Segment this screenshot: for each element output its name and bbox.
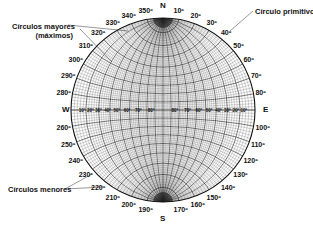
east-label: E — [263, 106, 268, 114]
azimuth-label-280: 280º — [57, 89, 71, 96]
azimuth-label-230: 230º — [79, 171, 93, 178]
equator-degree-label: 30º — [95, 108, 102, 113]
azimuth-label-140: 140º — [221, 184, 235, 191]
azimuth-label-340: 340º — [121, 12, 135, 19]
north-label: N — [160, 2, 166, 10]
azimuth-label-250: 250º — [61, 141, 75, 148]
azimuth-label-120: 120º — [243, 157, 257, 164]
azimuth-label-60: 60º — [243, 56, 253, 63]
azimuth-label-20: 20º — [191, 12, 201, 19]
equator-degree-label: 10º — [241, 108, 248, 113]
azimuth-label-220: 220º — [91, 184, 105, 191]
equator-degree-label: 40º — [215, 108, 222, 113]
azimuth-label-10: 10º — [174, 7, 184, 14]
azimuth-label-40: 40º — [221, 29, 231, 36]
azimuth-label-50: 50º — [233, 42, 243, 49]
azimuth-label-80: 80º — [255, 89, 265, 96]
azimuth-label-160: 160º — [191, 201, 205, 208]
azimuth-label-150: 150º — [207, 194, 221, 201]
great-circles-sublabel: (máximos) — [12, 32, 75, 41]
azimuth-label-240: 240º — [69, 157, 83, 164]
equator-degree-label: 30º — [224, 108, 231, 113]
equator-degree-label: 70º — [135, 108, 142, 113]
azimuth-label-70: 70º — [251, 72, 261, 79]
great-circles-callout: Círculos mayores (máximos) — [12, 23, 75, 40]
equator-degree-label: 40º — [104, 108, 111, 113]
azimuth-label-300: 300º — [69, 56, 83, 63]
equator-degree-label: 80º — [171, 108, 178, 113]
callout-leader-line — [230, 11, 253, 31]
stereonet-diagram: 10º10º20º20º30º30º40º40º50º50º60º60º70º7… — [0, 0, 313, 227]
equator-degree-label: 70º — [184, 108, 191, 113]
equator-degree-label: 20º — [87, 108, 94, 113]
primitive-circle-callout: Círculo primitivo — [255, 8, 313, 17]
south-label: S — [160, 215, 165, 223]
azimuth-label-170: 170º — [174, 206, 188, 213]
equator-degree-label: 10º — [79, 108, 86, 113]
equator-degree-label: 60º — [124, 108, 131, 113]
azimuth-label-130: 130º — [233, 171, 247, 178]
azimuth-label-190: 190º — [138, 206, 152, 213]
equator-degree-label: 80º — [148, 108, 155, 113]
azimuth-label-290: 290º — [61, 72, 75, 79]
west-label: W — [62, 106, 70, 114]
equator-degree-label: 60º — [196, 108, 203, 113]
azimuth-label-100: 100º — [255, 124, 269, 131]
small-circles-callout: Círculos menores — [8, 186, 71, 195]
azimuth-label-310: 310º — [79, 42, 93, 49]
azimuth-label-260: 260º — [57, 124, 71, 131]
equator-degree-label: 20º — [232, 108, 239, 113]
azimuth-label-30: 30º — [207, 19, 217, 26]
azimuth-label-320: 320º — [91, 29, 105, 36]
equator-degree-label: 50º — [114, 108, 121, 113]
equator-degree-label: 50º — [206, 108, 213, 113]
azimuth-label-350: 350º — [138, 7, 152, 14]
azimuth-label-210: 210º — [106, 194, 120, 201]
azimuth-label-110: 110º — [251, 141, 265, 148]
azimuth-label-200: 200º — [121, 201, 135, 208]
azimuth-label-330: 330º — [106, 19, 120, 26]
